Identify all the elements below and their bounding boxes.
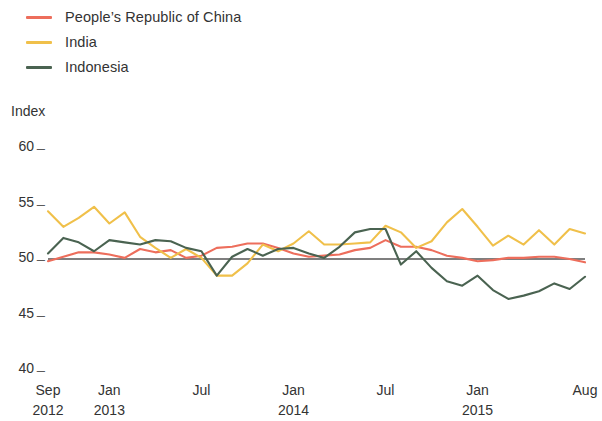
series-line-indonesia <box>48 229 585 299</box>
series-line-india <box>48 207 585 276</box>
